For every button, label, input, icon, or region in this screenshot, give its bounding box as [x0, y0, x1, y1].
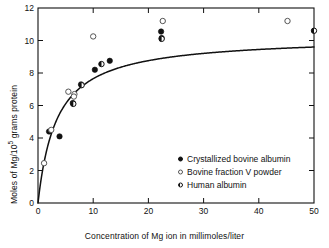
y-tick-label: 6: [18, 101, 34, 111]
x-tick-label: 50: [309, 206, 318, 216]
y-tick-label: 12: [18, 3, 34, 13]
legend-item: Human albumin: [178, 178, 318, 191]
data-point: [159, 36, 164, 41]
data-point: [91, 34, 96, 39]
data-point: [160, 18, 165, 23]
y-tick-label: 4: [18, 133, 34, 143]
data-point: [107, 58, 112, 63]
y-tick-label: 10: [18, 36, 34, 46]
data-point: [311, 28, 316, 33]
chart-canvas: [0, 0, 329, 248]
y-tick-label: 2: [18, 166, 34, 176]
x-tick-label: 10: [88, 206, 97, 216]
data-point: [92, 67, 97, 72]
data-point: [57, 134, 62, 139]
data-point: [79, 82, 84, 87]
filled-circle-icon: [178, 156, 183, 161]
half-filled-circle-icon: [178, 182, 183, 187]
data-point: [71, 94, 76, 99]
data-point: [66, 89, 71, 94]
legend-item-label: Human albumin: [187, 180, 247, 190]
x-tick-label: 40: [254, 206, 263, 216]
x-tick-label: 0: [36, 206, 41, 216]
data-point: [158, 29, 163, 34]
data-point: [41, 160, 46, 165]
open-circle-icon: [178, 169, 183, 174]
data-point: [49, 127, 54, 132]
y-tick-label: 8: [18, 68, 34, 78]
legend-item: Bovine fraction V powder: [178, 165, 318, 178]
chart-figure: Concentration of Mg ion in millimoles/li…: [0, 0, 329, 248]
legend-item: Crystallized bovine albumin: [178, 152, 318, 165]
x-tick-label: 30: [199, 206, 208, 216]
y-tick-label: 0: [18, 198, 34, 208]
data-point: [99, 61, 104, 66]
data-point: [285, 18, 290, 23]
data-point: [71, 101, 76, 106]
legend-item-label: Bovine fraction V powder: [187, 167, 282, 177]
legend-item-label: Crystallized bovine albumin: [187, 154, 290, 164]
x-axis-label: Concentration of Mg ion in millimoles/li…: [0, 231, 329, 241]
x-tick-label: 20: [144, 206, 153, 216]
